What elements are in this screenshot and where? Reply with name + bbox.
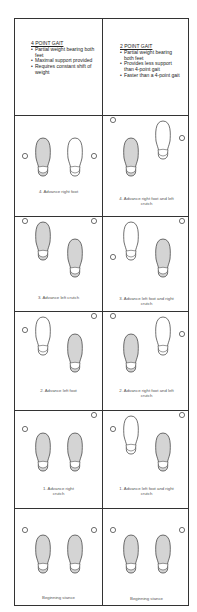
- crutch-tip-icon: [22, 153, 27, 158]
- step-cell: 3. Advance left foot and right crutch: [103, 217, 190, 310]
- four-point-gait-header: 4 POINT GAIT Partial weight bearing both…: [31, 41, 97, 75]
- crutch-tip-icon: [179, 218, 184, 223]
- heel-icon: [70, 267, 80, 274]
- heel-icon: [158, 563, 168, 570]
- step-cell: Beginning stance: [15, 509, 102, 605]
- heel-icon: [158, 149, 168, 156]
- heel-icon: [158, 345, 168, 352]
- step-cell: 4. Advance right foot and left crutch: [103, 116, 190, 215]
- crutch-tip-icon: [110, 527, 115, 532]
- crutch-tip-icon: [91, 153, 96, 158]
- crutch-tip-icon: [179, 135, 184, 140]
- crutch-tip-icon: [91, 412, 96, 417]
- step-caption: 3. Advance left foot and right crutch: [103, 296, 190, 306]
- footprint-diagram: [15, 116, 102, 215]
- crutch-tip-icon: [91, 527, 96, 532]
- crutch-tip-icon: [22, 426, 27, 431]
- footprint-diagram: [103, 509, 190, 605]
- step-caption: 2. Advance right foot and left crutch: [103, 388, 190, 398]
- step-caption: 1. Advance left foot and right crutch: [103, 486, 190, 496]
- step-cell: 1. Advance left foot and right crutch: [103, 411, 190, 507]
- crutch-tip-icon: [179, 412, 184, 417]
- crutch-tip-icon: [179, 527, 184, 532]
- crutch-tip-icon: [110, 426, 115, 431]
- step-caption: 4. Advance right foot and left crutch: [103, 196, 190, 206]
- heel-icon: [126, 250, 136, 257]
- four-point-bullet: Requires constant shift of weight: [31, 64, 97, 75]
- heel-icon: [126, 444, 136, 451]
- step-caption: 3. Advance left crutch: [15, 295, 102, 300]
- heel-icon: [126, 563, 136, 570]
- two-point-bullet: Faster than a 4-point gait: [120, 73, 182, 79]
- crutch-tip-icon: [91, 313, 96, 318]
- step-cell: 2. Advance right foot and left crutch: [103, 312, 190, 409]
- step-cell: Beginning stance: [103, 509, 190, 605]
- step-cell: 4. Advance right foot: [15, 116, 102, 215]
- heel-icon: [70, 461, 80, 468]
- heel-icon: [38, 461, 48, 468]
- step-caption: 2. Advance left foot: [15, 388, 102, 393]
- crutch-tip-icon: [22, 327, 27, 332]
- heel-icon: [126, 166, 136, 173]
- crutch-tip-icon: [110, 254, 115, 259]
- crutch-tip-icon: [179, 331, 184, 336]
- heel-icon: [38, 563, 48, 570]
- crutch-tip-icon: [22, 218, 27, 223]
- heel-icon: [70, 563, 80, 570]
- heel-icon: [70, 362, 80, 369]
- crutch-tip-icon: [22, 527, 27, 532]
- heel-icon: [38, 166, 48, 173]
- step-cell: 3. Advance left crutch: [15, 217, 102, 310]
- step-cell: 2. Advance left foot: [15, 312, 102, 409]
- heel-icon: [158, 461, 168, 468]
- heel-icon: [158, 267, 168, 274]
- footprint-diagram: [15, 312, 102, 409]
- crutch-tip-icon: [110, 117, 115, 122]
- heel-icon: [38, 250, 48, 257]
- step-caption: 1. Advance right crutch: [15, 486, 102, 496]
- step-caption: Beginning stance: [103, 596, 190, 601]
- two-point-bullet: Provides less support than 4-point gait: [120, 61, 182, 72]
- heel-icon: [38, 345, 48, 352]
- step-caption: Beginning stance: [15, 595, 102, 600]
- heel-icon: [70, 166, 80, 173]
- heel-icon: [126, 362, 136, 369]
- step-caption: 4. Advance right foot: [15, 189, 102, 194]
- footprint-diagram: [15, 509, 102, 605]
- step-cell: 1. Advance right crutch: [15, 411, 102, 507]
- crutch-tip-icon: [91, 218, 96, 223]
- two-point-gait-header: 2 POINT GAIT Partial weight bearing both…: [120, 44, 182, 78]
- crutch-tip-icon: [110, 313, 115, 318]
